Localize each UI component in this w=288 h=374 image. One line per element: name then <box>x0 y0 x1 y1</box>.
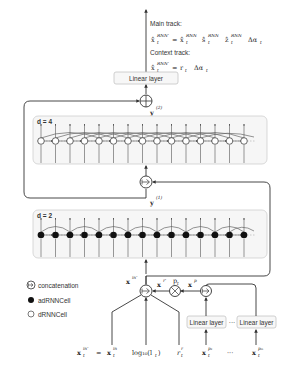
concatenation-node-input-icon <box>140 285 152 297</box>
svg-text:RNN': RNN' <box>156 61 169 66</box>
svg-text:x: x <box>252 349 256 357</box>
adrnncell-node <box>226 232 233 239</box>
svg-text:t: t <box>231 40 233 45</box>
svg-text:=: = <box>96 349 101 357</box>
svg-text:x̂: x̂ <box>180 36 184 44</box>
drnncell-node <box>139 138 146 145</box>
xin-sup: in' <box>132 275 137 280</box>
p-sub: t <box>177 281 179 286</box>
drnncell-node <box>168 138 175 145</box>
context-track-equation: x̂ RNN' t = r t Δα t <box>151 61 208 73</box>
drnncell-node <box>197 138 204 145</box>
y1-sup: (1) <box>156 195 162 200</box>
svg-text:Δα: Δα <box>248 36 258 44</box>
svg-text:···: ··· <box>227 349 233 357</box>
block-d2-label: d = 2 <box>37 212 52 219</box>
architecture-diagram: Main track: x̂ RNN' t = x̂ RNN t ŝ RNN t… <box>0 0 288 374</box>
svg-text:t: t <box>258 353 260 358</box>
concatenation-node-middle-icon <box>140 176 152 188</box>
drnncell-node <box>212 138 219 145</box>
svg-text:r: r <box>181 346 184 351</box>
linear-layer-left-label: Linear layer <box>190 319 225 327</box>
legend-adrnncell-label: adRNNCell <box>38 297 71 304</box>
adrnncell-node <box>197 232 204 239</box>
bottom-equation: x in' t = x in t log₁₀(l t ) r r t x p₁ … <box>77 346 264 358</box>
svg-text:t: t <box>208 353 210 358</box>
drnncell-node <box>183 138 190 145</box>
svg-text:t: t <box>186 40 188 45</box>
legend: concatenation adRNNCell dRNNCell <box>27 281 79 318</box>
main-track-equation: x̂ RNN' t = x̂ RNN t ŝ RNN t ẑ RNN t Δα … <box>151 33 262 45</box>
xr-sup: r' <box>163 278 166 283</box>
linear-layer-top-label: Linear layer <box>129 75 164 83</box>
drnncell-node <box>110 138 117 145</box>
svg-text:t: t <box>83 353 85 358</box>
drnncell-node <box>67 138 74 145</box>
drnncell-node <box>96 138 103 145</box>
svg-text:t: t <box>206 68 208 73</box>
y1-label: y <box>149 199 154 207</box>
xr-label: x <box>157 281 161 289</box>
r-wire <box>151 295 179 345</box>
svg-text:x̂: x̂ <box>151 36 155 44</box>
adrnncell-node <box>168 232 175 239</box>
drnncell-node <box>226 138 233 145</box>
legend-filled-circle-icon <box>28 297 34 303</box>
svg-text:t: t <box>208 40 210 45</box>
svg-text:Δα: Δα <box>194 64 204 72</box>
svg-text:t: t <box>260 40 262 45</box>
sum-node-icon <box>140 95 152 107</box>
svg-text:RNN: RNN <box>207 33 219 38</box>
svg-text:RNN': RNN' <box>156 33 169 38</box>
adrnncell-node <box>125 232 132 239</box>
svg-text:=: = <box>172 64 177 72</box>
svg-text:t: t <box>157 40 159 45</box>
adrnncell-node <box>38 232 45 239</box>
svg-text:in: in <box>113 346 117 351</box>
xin-label: x <box>126 278 130 286</box>
drnncell-node <box>81 138 88 145</box>
context-track-label: Context track: <box>150 49 190 56</box>
linear-layer-right-label: Linear layer <box>240 319 275 327</box>
svg-text:RNN: RNN <box>230 33 242 38</box>
svg-text:r: r <box>180 64 184 72</box>
svg-text:x: x <box>202 349 206 357</box>
adrnncell-node <box>110 232 117 239</box>
concatenation-node-p-icon <box>201 286 212 297</box>
adrnncell-node <box>52 232 59 239</box>
svg-text:in': in' <box>83 346 88 351</box>
svg-text:x̂: x̂ <box>151 64 155 72</box>
svg-text:t: t <box>185 68 187 73</box>
svg-text:RNN: RNN <box>185 33 197 38</box>
adrnncell-node <box>241 232 248 239</box>
multiply-node-icon <box>170 286 181 297</box>
svg-text:): ) <box>158 349 161 357</box>
drnncell-node <box>125 138 132 145</box>
block-d4-label: d = 4 <box>37 118 52 125</box>
adrnncell-node <box>67 232 74 239</box>
svg-text:log₁₀(l: log₁₀(l <box>132 349 152 357</box>
svg-text:t: t <box>181 353 183 358</box>
y2-sup: (2) <box>156 105 162 110</box>
linear-ellipsis: ··· <box>229 319 236 326</box>
drnncell-node <box>52 138 59 145</box>
svg-text:p₁: p₁ <box>208 346 213 351</box>
svg-text:x: x <box>77 349 81 357</box>
legend-drnncell-label: dRNNCell <box>38 311 67 318</box>
svg-text:ŝ: ŝ <box>202 36 205 44</box>
svg-text:t: t <box>113 353 115 358</box>
adrnncell-node <box>139 232 146 239</box>
svg-text:ẑ: ẑ <box>225 36 229 44</box>
adrnncell-node <box>81 232 88 239</box>
adrnncell-node <box>154 232 161 239</box>
linear-right-to-concat-wire <box>206 284 256 316</box>
xin-wire <box>112 295 141 345</box>
adrnncell-node <box>212 232 219 239</box>
svg-text:t: t <box>155 353 157 358</box>
xp-sup: p <box>194 278 197 283</box>
svg-text:pₘ: pₘ <box>258 346 264 351</box>
adrnncell-node <box>96 232 103 239</box>
drnncell-node <box>241 138 248 145</box>
xp-label: x <box>188 281 192 289</box>
adrnncell-node <box>183 232 190 239</box>
